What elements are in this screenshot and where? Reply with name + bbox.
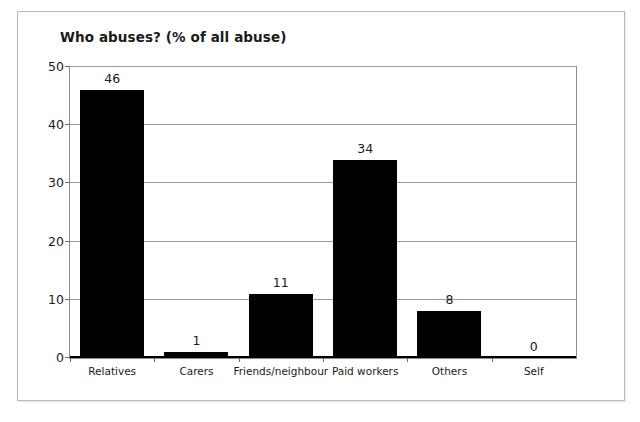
y-tick-label-10: 10 <box>48 291 64 306</box>
x-tick-label-paid-workers: Paid workers <box>332 365 399 377</box>
y-tick-label-30: 30 <box>48 175 64 190</box>
bar-friends-neighbour[interactable] <box>249 294 313 358</box>
x-tick-label-others: Others <box>432 365 467 377</box>
x-axis-line <box>70 356 576 358</box>
bar-value-others: 8 <box>446 292 454 307</box>
bar-value-self: 0 <box>530 339 538 354</box>
bar-slot-self: 0 Self <box>492 67 576 358</box>
bar-slot-others: 8 Others <box>407 67 491 358</box>
x-tick-label-relatives: Relatives <box>88 365 136 377</box>
y-tick-label-40: 40 <box>48 117 64 132</box>
figure-frame: Who abuses? (% of all abuse) 50 40 30 20… <box>17 11 625 401</box>
y-tick-label-50: 50 <box>48 59 64 74</box>
x-tick-label-friends-neighbour: Friends/neighbour <box>233 365 328 377</box>
bar-value-paid-workers: 34 <box>357 141 373 156</box>
bar-others[interactable] <box>417 311 481 358</box>
x-tick-label-self: Self <box>524 365 544 377</box>
bar-relatives[interactable] <box>80 90 144 358</box>
bar-slot-paid-workers: 34 Paid workers <box>323 67 407 358</box>
y-tick-label-20: 20 <box>48 233 64 248</box>
bar-paid-workers[interactable] <box>333 160 397 358</box>
page-title: Who abuses? (% of all abuse) <box>60 29 286 45</box>
bar-value-carers: 1 <box>193 333 201 348</box>
bar-slot-carers: 1 Carers <box>154 67 238 358</box>
bar-slot-relatives: 46 Relatives <box>70 67 154 358</box>
bar-value-friends-neighbour: 11 <box>273 275 289 290</box>
bar-value-relatives: 46 <box>104 71 120 86</box>
bar-slot-friends-neighbour: 11 Friends/neighbour <box>239 67 323 358</box>
x-tick-label-carers: Carers <box>179 365 213 377</box>
y-tick-label-0: 0 <box>56 350 64 365</box>
plot-area: 50 40 30 20 10 0 46 Relatives <box>69 66 577 359</box>
